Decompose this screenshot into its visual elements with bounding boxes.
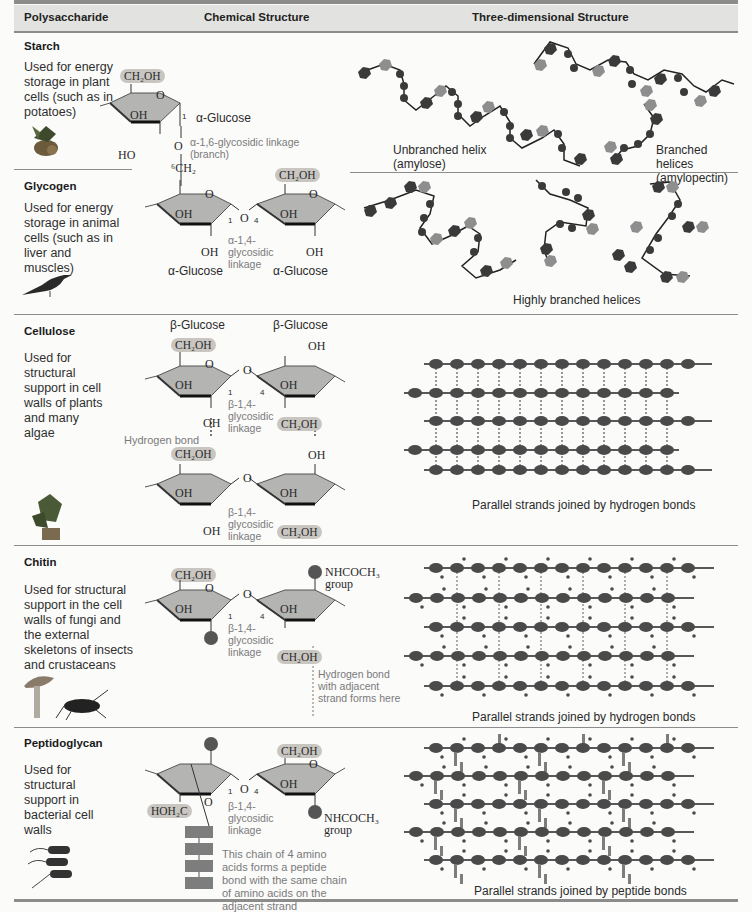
amino-acid-chain-note: This chain of 4 amino acids forms a pept… [222,848,352,912]
glycosidic-linkage-label: α-1,6-glycosidic linkage (branch) [190,136,300,160]
top-rule [14,0,738,4]
glycosidic-linkage-label: α-1,4-glycosidic linkage [228,234,278,270]
oh-bottom-left: OH [201,246,218,259]
link-oxygen: O [240,783,249,796]
nhcoch3-group-label: NHCOCH₃ group [325,566,385,590]
cellulose-strands-illustration [414,358,734,488]
divider-chitin-peptidoglycan [14,727,738,728]
oh-group: OH [175,379,192,392]
oh-group-left: OH [175,603,192,616]
polysaccharide-description: Used for structural support in bacterial… [24,763,104,838]
cricket-icon [56,690,110,720]
oh-group-left: OH [175,208,192,221]
glycosidic-linkage-label: β-1,4-glycosidic linkage [228,398,280,434]
ch2oh-group: CH₂OH [120,69,165,83]
ch2oh-lower-left: CH₂OH [171,447,216,461]
header-polysaccharide: Polysaccharide [24,11,108,23]
caption-unbranched-helix: Unbranched helix (amylose) [393,143,503,171]
branch-bond [180,126,184,186]
peptidoglycan-strands-illustration [414,738,734,878]
carbon-4-label: 4 [254,214,258,227]
hydrogen-bond-note: Hydrogen bond with adjacent strand forms… [318,668,408,704]
ring-oxygen-left: O [204,796,213,809]
oh-group: OH [280,778,297,791]
caption-peptidoglycan-strands: Parallel strands joined by peptide bonds [474,884,687,898]
bird-icon [20,267,76,297]
caption-cellulose-strands: Parallel strands joined by hydrogen bond… [472,498,695,512]
sugar-right-label: β-Glucose [273,319,328,332]
bacteria-icon [28,842,78,892]
header-3d-structure: Three-dimensional Structure [472,11,629,23]
oh-bottom-left: OH [203,525,220,538]
polysaccharide-description: Used for structural support in the cell … [24,583,136,673]
carbon-1-label: 1 [182,110,186,123]
oh-bottom-right: OH [306,246,323,259]
mushroom-icon [22,672,56,722]
c6-ch2-label: ⁶CH₂ [171,162,196,175]
nhcoch3-group-label: NHCOCH₃ group [324,812,384,836]
carbon-1-label: 1 [228,214,232,227]
caption-chitin-strands: Parallel strands joined by hydrogen bond… [472,710,695,724]
ring-oxygen: O [205,582,214,595]
table-header: Polysaccharide Chemical Structure Three-… [14,5,738,33]
oh-group-right: OH [280,379,297,392]
polysaccharide-name: Glycogen [24,180,76,192]
oh-lower-ring-left: OH [175,487,192,500]
divider-starch-glycogen-left [14,169,132,170]
polysaccharide-description: Used for structural support in cell wall… [24,351,104,441]
glycosidic-linkage-label: β-1,4-glycosidic linkage [228,800,280,836]
polysaccharide-name: Starch [24,40,60,52]
caption-highly-branched: Highly branched helices [513,293,640,307]
link-oxygen: O [240,212,249,225]
oh-group: OH [130,109,147,122]
ch2oh-bottom: CH₂OH [277,650,322,664]
oh-group-right: OH [280,208,297,221]
divider-cellulose-chitin [14,545,738,546]
ch2oh-group: CH₂OH [277,744,322,758]
plant-icon [28,492,72,542]
ring-oxygen-right: O [309,758,318,771]
sugar-right-label: α-Glucose [273,265,328,278]
carbon-1-label: 1 [228,785,232,798]
ring-oxygen-right: O [309,188,318,201]
ring-oxygen-left: O [205,188,214,201]
oh-mid-left: OH [203,417,220,430]
polysaccharide-description: Used for energy storage in animal cells … [24,201,124,276]
ch2oh-bottom-right: CH₂OH [277,525,322,539]
sugar-left-label: α-Glucose [168,265,223,278]
ho-group: HO [118,149,135,162]
oh-lower-right: OH [308,449,325,462]
potato-plant-icon [26,120,66,160]
link-oxygen-lower: O [243,472,252,485]
oh-group-right: OH [280,603,297,616]
divider-glycogen-cellulose [14,314,738,315]
ring-oxygen: O [205,358,214,371]
highly-branched-helix-illustration [360,178,740,288]
ch2oh-top-left: CH₂OH [171,338,216,352]
polysaccharide-name: Peptidoglycan [24,737,103,749]
link-oxygen: O [243,364,252,377]
ch2oh-mid-right: CH₂OH [277,417,322,431]
sugar-label: α-Glucose [196,112,251,125]
hoh2c-group: HOH₂C [147,804,192,818]
chitin-strands-illustration [414,554,734,700]
header-chemical-structure: Chemical Structure [204,11,309,23]
carbon-4-label: 4 [254,785,258,798]
glycosidic-linkage-label: β-1,4-glycosidic linkage [228,622,280,658]
oh-lower-ring-right: OH [280,487,297,500]
sugar-left-label: β-Glucose [170,319,225,332]
ring-oxygen: O [156,89,165,102]
hydrogen-bond-label: Hydrogen bond [124,434,199,446]
polysaccharide-name: Cellulose [24,325,75,337]
polysaccharide-name: Chitin [24,556,57,568]
link-oxygen: O [243,588,252,601]
glycosidic-linkage-label-lower: β-1,4-glycosidic linkage [228,506,280,542]
bottom-rule [14,899,738,902]
